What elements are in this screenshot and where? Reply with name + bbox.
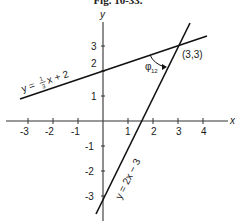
svg-text:3: 3 [41, 83, 47, 90]
line-2-equation-label: y = 2x − 3 [113, 156, 143, 201]
y-tick-label: -3 [85, 191, 94, 202]
x-tick-label: -3 [20, 126, 29, 137]
x-axis-label: x [229, 115, 236, 126]
line-y-2x-minus-3 [96, 23, 190, 214]
svg-text:y =: y = [20, 79, 37, 94]
figure: Fig. 10-33. x y -3 -2 -1 1 2 3 4 [0, 0, 236, 222]
x-tick-label: 2 [151, 126, 157, 137]
svg-text:12: 12 [151, 68, 158, 74]
y-tick-label: 2 [91, 58, 97, 69]
figure-title: Fig. 10-33. [0, 0, 236, 6]
x-tick-label: -2 [45, 126, 54, 137]
coordinate-plot: x y -3 -2 -1 1 2 3 4 [0, 0, 236, 222]
line-1-equation-label: y = 1 3 x + 2 [20, 67, 71, 96]
x-tick-label: 1 [125, 126, 131, 137]
y-tick-label: 3 [91, 41, 97, 52]
y-tick-label: 1 [91, 91, 97, 102]
svg-text:1: 1 [39, 75, 45, 82]
y-tick-label: -2 [85, 166, 94, 177]
x-tick-labels: -3 -2 -1 1 2 3 4 [20, 126, 207, 137]
x-tick-label: -1 [71, 126, 80, 137]
x-tick-label: 3 [176, 126, 182, 137]
y-tick-label: -1 [85, 141, 94, 152]
arrow-head-icon [162, 64, 167, 70]
y-axis-label: y [99, 9, 106, 20]
intersection-label: (3,3) [182, 49, 203, 60]
x-tick-label: 4 [201, 126, 207, 137]
